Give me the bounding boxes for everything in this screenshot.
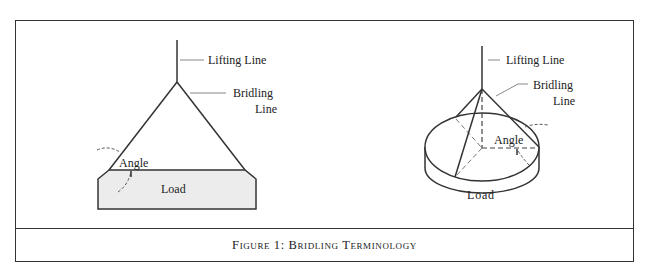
right-bridling-label-2: Line — [553, 94, 575, 108]
left-diagram: Lifting Line Bridling Line Angle Load — [97, 40, 277, 209]
right-diagram: Lifting Line Bridling Line Angle Load — [425, 46, 575, 202]
right-bridling-label-1: Bridling — [533, 78, 573, 92]
right-load-label: Load — [467, 188, 495, 202]
right-lifting-line-label: Lifting Line — [506, 53, 564, 67]
left-angle-label: Angle — [119, 156, 148, 170]
right-bridling-leader — [496, 84, 528, 96]
left-bridling-label-1: Bridling — [233, 86, 273, 100]
left-bridling-label-2: Line — [255, 102, 277, 116]
left-angle-arc-top — [97, 148, 120, 152]
right-angle-label: Angle — [494, 133, 523, 147]
bridling-diagram: Lifting Line Bridling Line Angle Load Li… — [0, 0, 649, 272]
left-lifting-line-label: Lifting Line — [208, 53, 266, 67]
left-load-label: Load — [161, 182, 186, 196]
